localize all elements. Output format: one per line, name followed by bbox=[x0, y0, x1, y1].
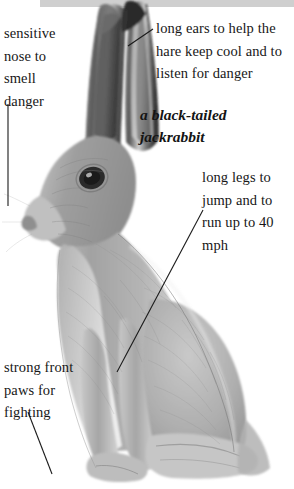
annotation-strong-front-paws: strong front paws for fighting bbox=[4, 356, 100, 424]
annotation-long-legs: long legs to jump and to run up to 40 mp… bbox=[202, 166, 294, 256]
top-gray-band bbox=[40, 0, 294, 7]
leader-line-ears bbox=[128, 29, 153, 46]
jackrabbit-diagram-page: sensitive nose to smell danger long ears… bbox=[0, 0, 294, 489]
figure-title: a black-tailed jackrabbit bbox=[140, 104, 290, 148]
annotation-sensitive-nose: sensitive nose to smell danger bbox=[4, 22, 78, 112]
head-group bbox=[2, 136, 136, 252]
annotation-long-ears: long ears to help the hare keep cool and… bbox=[156, 17, 294, 85]
leader-line-legs bbox=[117, 210, 203, 372]
